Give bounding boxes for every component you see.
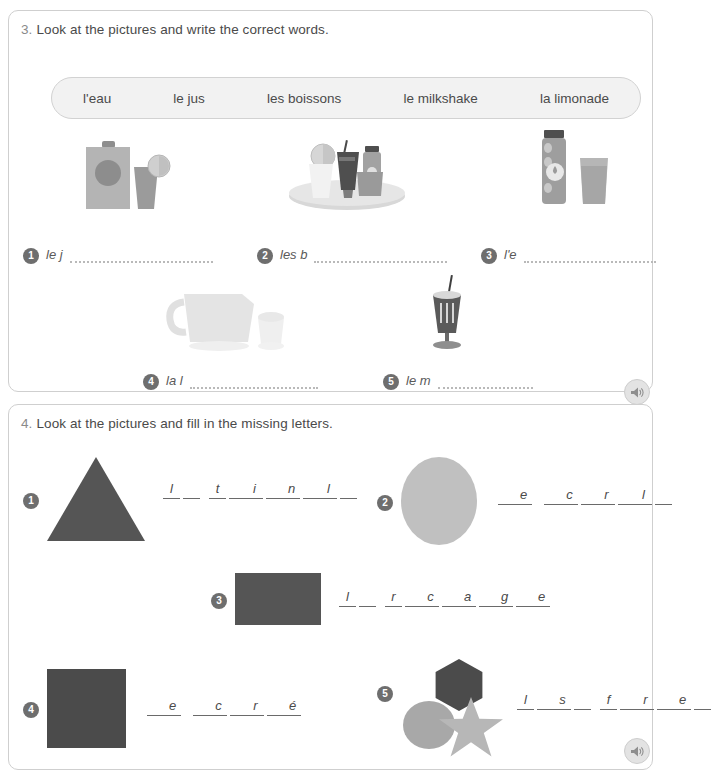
missing-letter-blank[interactable]: [620, 692, 637, 710]
missing-letter-blank[interactable]: [655, 487, 672, 505]
missing-letter-blank[interactable]: [359, 589, 376, 607]
given-letter: e: [515, 487, 532, 505]
shape-item-5: 5 lsfre: [377, 655, 715, 755]
given-letter: e: [164, 698, 181, 716]
letter-blanks-2[interactable]: ecrl: [495, 487, 681, 505]
given-letter: é: [284, 698, 301, 716]
missing-letter-blank[interactable]: [266, 481, 283, 499]
shape-badge-2: 2: [377, 495, 393, 511]
shape-cluster: [401, 655, 511, 755]
word-bank: l'eau le jus les boissons le milkshake l…: [51, 77, 641, 119]
answer-blank-3[interactable]: [524, 248, 656, 263]
letter-blanks-5[interactable]: lsfre: [517, 692, 715, 710]
given-letter: l: [320, 481, 337, 499]
picture-tray-of-drinks: [274, 129, 424, 214]
given-letter: l: [517, 692, 534, 710]
blank-group: tinl: [209, 481, 357, 499]
lemonade-jug-and-glass-icon: [162, 276, 307, 358]
missing-letter-blank[interactable]: [229, 481, 246, 499]
given-letter: i: [246, 481, 263, 499]
missing-letter-blank[interactable]: [405, 589, 422, 607]
blank-group: crl: [541, 487, 672, 505]
triangle-shape: [47, 457, 145, 541]
given-letter: c: [422, 589, 439, 607]
exercise-3-number: 3.: [21, 22, 32, 37]
item-badge-1: 1: [23, 248, 39, 264]
given-letter: a: [459, 589, 476, 607]
item-badge-5: 5: [383, 374, 399, 390]
missing-letter-blank[interactable]: [442, 589, 459, 607]
picture-water-bottle-and-glass: [504, 129, 654, 214]
missing-letter-blank[interactable]: [230, 698, 247, 716]
speaker-icon: [630, 745, 645, 758]
exercise-3-panel: 3.Look at the pictures and write the cor…: [8, 10, 653, 392]
blank-group: e: [144, 698, 181, 716]
blank-group: cré: [190, 698, 301, 716]
given-letter: c: [561, 487, 578, 505]
missing-letter-blank[interactable]: [147, 698, 164, 716]
blank-group: l: [163, 481, 200, 499]
shape-item-4: 4 ecré: [23, 669, 310, 748]
word-bank-option-5[interactable]: la limonade: [509, 91, 640, 106]
missing-letter-blank[interactable]: [303, 481, 320, 499]
answer-prompt-4: la l: [166, 374, 183, 388]
answer-blank-2[interactable]: [314, 248, 447, 263]
given-letter: t: [209, 481, 226, 499]
missing-letter-blank[interactable]: [479, 589, 496, 607]
missing-letter-blank[interactable]: [544, 487, 561, 505]
answer-blank-1[interactable]: [70, 248, 213, 263]
given-letter: c: [210, 698, 227, 716]
word-bank-option-3[interactable]: les boissons: [236, 91, 372, 106]
given-letter: r: [385, 589, 402, 607]
item-badge-4: 4: [143, 374, 159, 390]
missing-letter-blank[interactable]: [574, 692, 591, 710]
answer-blank-5[interactable]: [438, 374, 533, 389]
missing-letter-blank[interactable]: [340, 481, 357, 499]
answer-row-3: 3 l'e: [481, 248, 656, 264]
word-bank-option-4[interactable]: le milkshake: [372, 91, 508, 106]
blank-group: rcage: [385, 589, 550, 607]
answer-prompt-3: l'e: [504, 248, 517, 262]
item-badge-3: 3: [481, 248, 497, 264]
given-letter: n: [283, 481, 300, 499]
blank-group: fre: [600, 692, 711, 710]
exercise-4-number: 4.: [21, 416, 32, 431]
given-letter: g: [496, 589, 513, 607]
answer-blank-4[interactable]: [190, 374, 318, 389]
exercise-3-instruction: Look at the pictures and write the corre…: [36, 22, 328, 37]
answer-row-4: 4 la l: [143, 374, 318, 390]
rectangle-shape: [235, 573, 321, 625]
letter-blanks-4[interactable]: ecré: [144, 698, 310, 716]
missing-letter-blank[interactable]: [581, 487, 598, 505]
missing-letter-blank[interactable]: [193, 698, 210, 716]
juice-carton-and-glass-icon: [74, 129, 194, 214]
word-bank-option-1[interactable]: l'eau: [52, 91, 142, 106]
water-bottle-and-glass-icon: [524, 124, 634, 214]
audio-button-exercise-4[interactable]: [624, 738, 650, 764]
shape-badge-4: 4: [23, 702, 39, 718]
answer-row-5: 5 le m: [383, 374, 533, 390]
missing-letter-blank[interactable]: [267, 698, 284, 716]
missing-letter-blank[interactable]: [618, 487, 635, 505]
missing-letter-blank[interactable]: [537, 692, 554, 710]
exercise-3-heading: 3.Look at the pictures and write the cor…: [21, 22, 329, 37]
blank-group: ls: [517, 692, 591, 710]
missing-letter-blank[interactable]: [516, 589, 533, 607]
letter-blanks-1[interactable]: ltinl: [163, 481, 366, 499]
shape-item-1: 1 ltinl: [23, 457, 366, 541]
given-letter: l: [163, 481, 180, 499]
missing-letter-blank[interactable]: [694, 692, 711, 710]
blank-group: e: [495, 487, 532, 505]
blank-group: l: [339, 589, 376, 607]
audio-button-exercise-3[interactable]: [624, 379, 650, 405]
missing-letter-blank[interactable]: [657, 692, 674, 710]
word-bank-option-2[interactable]: le jus: [142, 91, 236, 106]
given-letter: f: [600, 692, 617, 710]
missing-letter-blank[interactable]: [183, 481, 200, 499]
given-letter: r: [637, 692, 654, 710]
given-letter: l: [339, 589, 356, 607]
item-badge-2: 2: [257, 248, 273, 264]
answer-row-2: 2 les b: [257, 248, 447, 264]
letter-blanks-3[interactable]: lrcage: [339, 589, 559, 607]
missing-letter-blank[interactable]: [498, 487, 515, 505]
